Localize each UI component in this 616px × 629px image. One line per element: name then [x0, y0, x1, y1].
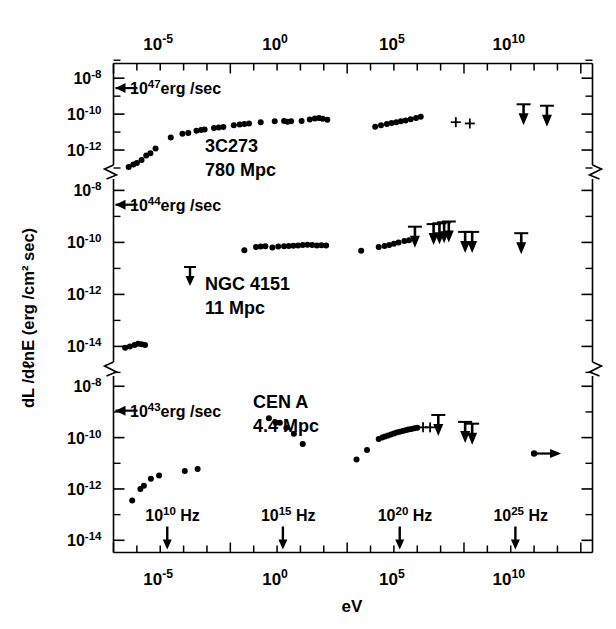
data-point — [148, 476, 154, 482]
data-point — [277, 420, 283, 426]
y-axis-tick-label-1: 10-10 — [67, 104, 101, 123]
series-radio — [122, 341, 148, 351]
upper-limit-marker — [540, 106, 554, 127]
y-axis-labels: 10-810-1010-1210-810-1010-1210-1410-810-… — [67, 68, 102, 549]
panel-data-ngc-4151 — [122, 222, 528, 351]
luminosity-label-ngc4151: 1044erg /sec — [130, 195, 221, 214]
data-point-plus — [451, 117, 461, 127]
data-point — [195, 466, 201, 472]
luminosity-label-cena: 1043erg /sec — [130, 401, 221, 420]
y-axis-tick-label-3: 10-8 — [73, 180, 102, 199]
top-axis-tick-label-3: 1010 — [492, 32, 525, 54]
series-radio — [129, 466, 200, 504]
frequency-marker-label-3: 1025 Hz — [493, 505, 548, 524]
data-point — [141, 483, 147, 489]
panel-name-cena: CEN A — [253, 392, 308, 412]
series-x-ray — [354, 425, 421, 463]
data-point — [262, 243, 268, 249]
right-axis-break-1 — [590, 362, 602, 376]
panel-data-cen-a — [129, 415, 561, 504]
bottom-axis-labels: 10-51001051010 — [143, 567, 525, 589]
luminosity-annotation-3c273: 1047erg /sec — [116, 78, 222, 97]
data-point — [142, 342, 148, 348]
data-point — [291, 431, 297, 437]
data-point — [220, 124, 226, 130]
luminosity-annotation-ngc4151: 1044erg /sec — [116, 195, 222, 214]
ngc4151-inline-upper-limit — [184, 267, 196, 286]
series-x-ray — [358, 237, 412, 253]
luminosity-label-3c273: 1047erg /sec — [130, 78, 221, 97]
panel-distance-ngc4151: 11 Mpc — [205, 298, 265, 318]
y-axis-tick-label-6: 10-14 — [67, 336, 102, 355]
x-tick-marks — [114, 64, 581, 553]
data-point — [323, 243, 329, 249]
detection-with-range-marker — [531, 449, 561, 458]
data-point-plus — [425, 422, 435, 432]
y-axis-tick-label-8: 10-10 — [67, 428, 101, 447]
frequency-marker-arrow-head — [278, 540, 287, 550]
data-point — [376, 244, 382, 250]
upper-limit-marker — [431, 415, 445, 436]
data-point — [139, 157, 145, 163]
data-point — [147, 150, 153, 156]
y-axis-tick-label-10: 10-14 — [67, 530, 102, 549]
data-point — [324, 117, 330, 123]
top-axis-labels: 10-51001051010 — [143, 32, 525, 54]
panel-name-3c273: 3C273 — [205, 136, 258, 156]
y-axis-title: dL /dℓnE (erg /cm² sec) — [19, 228, 37, 408]
data-point — [372, 124, 378, 130]
bottom-axis-tick-label-3: 1010 — [492, 567, 525, 589]
data-point — [358, 248, 364, 254]
frequency-marker-15hz: 1015 Hz — [261, 505, 316, 550]
y-axis-tick-label-4: 10-10 — [67, 232, 101, 251]
data-point — [153, 146, 159, 152]
left-axis-break-1 — [105, 362, 117, 376]
data-point — [283, 425, 289, 431]
data-point — [246, 120, 252, 126]
upper-limit-marker — [514, 233, 528, 254]
data-point — [241, 247, 247, 253]
data-point — [408, 116, 414, 122]
data-point — [231, 122, 237, 128]
panel-data-3c273 — [126, 104, 554, 170]
panel-name-ngc4151: NGC 4151 — [205, 274, 290, 294]
data-point — [300, 441, 306, 447]
panel-label-3c273: 3C273780 Mpc — [205, 136, 276, 180]
series-plus-markers — [418, 422, 435, 432]
upper-limit-arrow-head — [186, 276, 195, 286]
data-point — [403, 117, 409, 123]
data-point — [307, 117, 313, 123]
data-point — [269, 245, 275, 251]
upper-limit-marker — [458, 422, 472, 443]
data-point — [156, 473, 162, 479]
left-axis-break-0 — [105, 165, 117, 179]
data-point — [288, 118, 294, 124]
series-infrared-optical — [241, 242, 329, 253]
luminosity-annotation-cena: 1043erg /sec — [116, 401, 222, 420]
data-point — [299, 118, 305, 124]
bottom-axis-tick-label-0: 10-5 — [143, 567, 173, 589]
data-point — [354, 456, 360, 462]
frequency-marker-10hz: 1010 Hz — [145, 505, 200, 550]
data-point — [202, 126, 208, 132]
right-axis-break-0 — [590, 165, 602, 179]
data-point — [185, 130, 191, 136]
series-upper-limits — [431, 415, 479, 445]
data-point — [418, 114, 424, 120]
frequency-marker-label-1: 1015 Hz — [261, 505, 316, 524]
frequency-marker-25hz: 1025 Hz — [493, 505, 548, 550]
frequency-marker-label-0: 1010 Hz — [145, 505, 200, 524]
data-point — [266, 415, 272, 421]
y-axis-title-text: dL /dℓnE (erg /cm² sec) — [19, 228, 37, 408]
bottom-axis-tick-label-1: 100 — [262, 567, 288, 589]
bottom-axis-tick-label-2: 105 — [379, 567, 405, 589]
series-upper-limits — [517, 104, 554, 126]
series-upper-limits — [408, 222, 528, 255]
x-axis-title-text: eV — [342, 597, 363, 616]
x-axis-title: eV — [342, 597, 363, 616]
panel-label-ngc4151: NGC 415111 Mpc — [205, 274, 290, 318]
data-point — [129, 498, 135, 504]
luminosity-arrow-head — [116, 83, 126, 93]
y-axis-tick-label-7: 10-8 — [73, 376, 102, 395]
top-axis-tick-label-0: 10-5 — [143, 32, 173, 54]
